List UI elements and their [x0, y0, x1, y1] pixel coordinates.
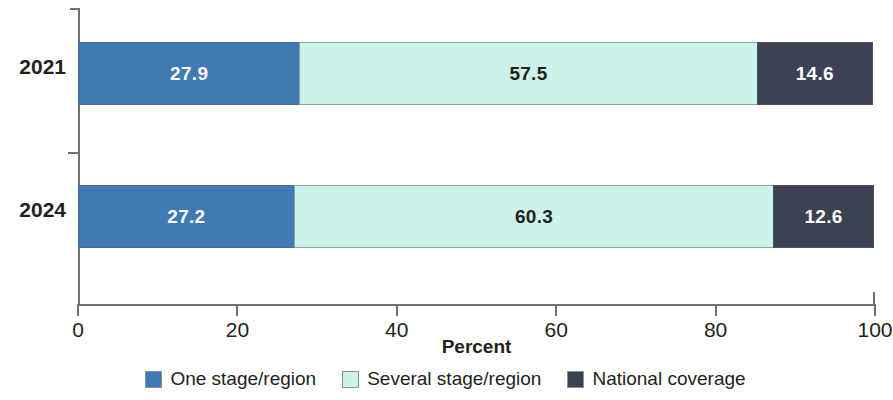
bar-segment-2021-one-stage-region: 27.9: [78, 42, 300, 105]
x-axis-tick-40: [396, 304, 398, 316]
legend-swatch-icon-several-stage-region: [342, 371, 359, 388]
bar-segment-2024-one-stage-region: 27.2: [78, 185, 295, 248]
legend-item-several-stage-region: Several stage/region: [342, 368, 541, 390]
category-label-2024: 2024: [0, 198, 66, 222]
legend-label-national-coverage: National coverage: [592, 368, 745, 390]
legend-label-one-stage-region: One stage/region: [170, 368, 316, 390]
bar-segment-2024-several-stage-region: 60.3: [294, 185, 775, 248]
x-axis-tick-20: [236, 304, 238, 316]
category-label-2021: 2021: [0, 55, 66, 79]
x-axis-tick-0: [77, 304, 79, 316]
chart-legend: One stage/region Several stage/region Na…: [0, 368, 891, 390]
bar-segment-2021-several-stage-region: 57.5: [299, 42, 757, 105]
x-axis-title: Percent: [78, 336, 875, 358]
legend-swatch-icon-national-coverage: [567, 371, 584, 388]
bar-row-2021: 27.9 57.5 14.6: [78, 42, 875, 105]
x-axis-tick-100: [874, 304, 876, 316]
x-axis-tick-80: [715, 304, 717, 316]
legend-item-one-stage-region: One stage/region: [145, 368, 316, 390]
bar-row-2024: 27.2 60.3 12.6: [78, 185, 875, 248]
x-axis-tick-60: [555, 304, 557, 316]
legend-label-several-stage-region: Several stage/region: [367, 368, 541, 390]
plot-area: 27.9 57.5 14.6 27.2 60.3 12.6: [78, 8, 875, 305]
bar-segment-2021-national-coverage: 14.6: [757, 42, 873, 105]
bar-segment-2024-national-coverage: 12.6: [773, 185, 873, 248]
legend-swatch-icon-one-stage-region: [145, 371, 162, 388]
legend-item-national-coverage: National coverage: [567, 368, 745, 390]
